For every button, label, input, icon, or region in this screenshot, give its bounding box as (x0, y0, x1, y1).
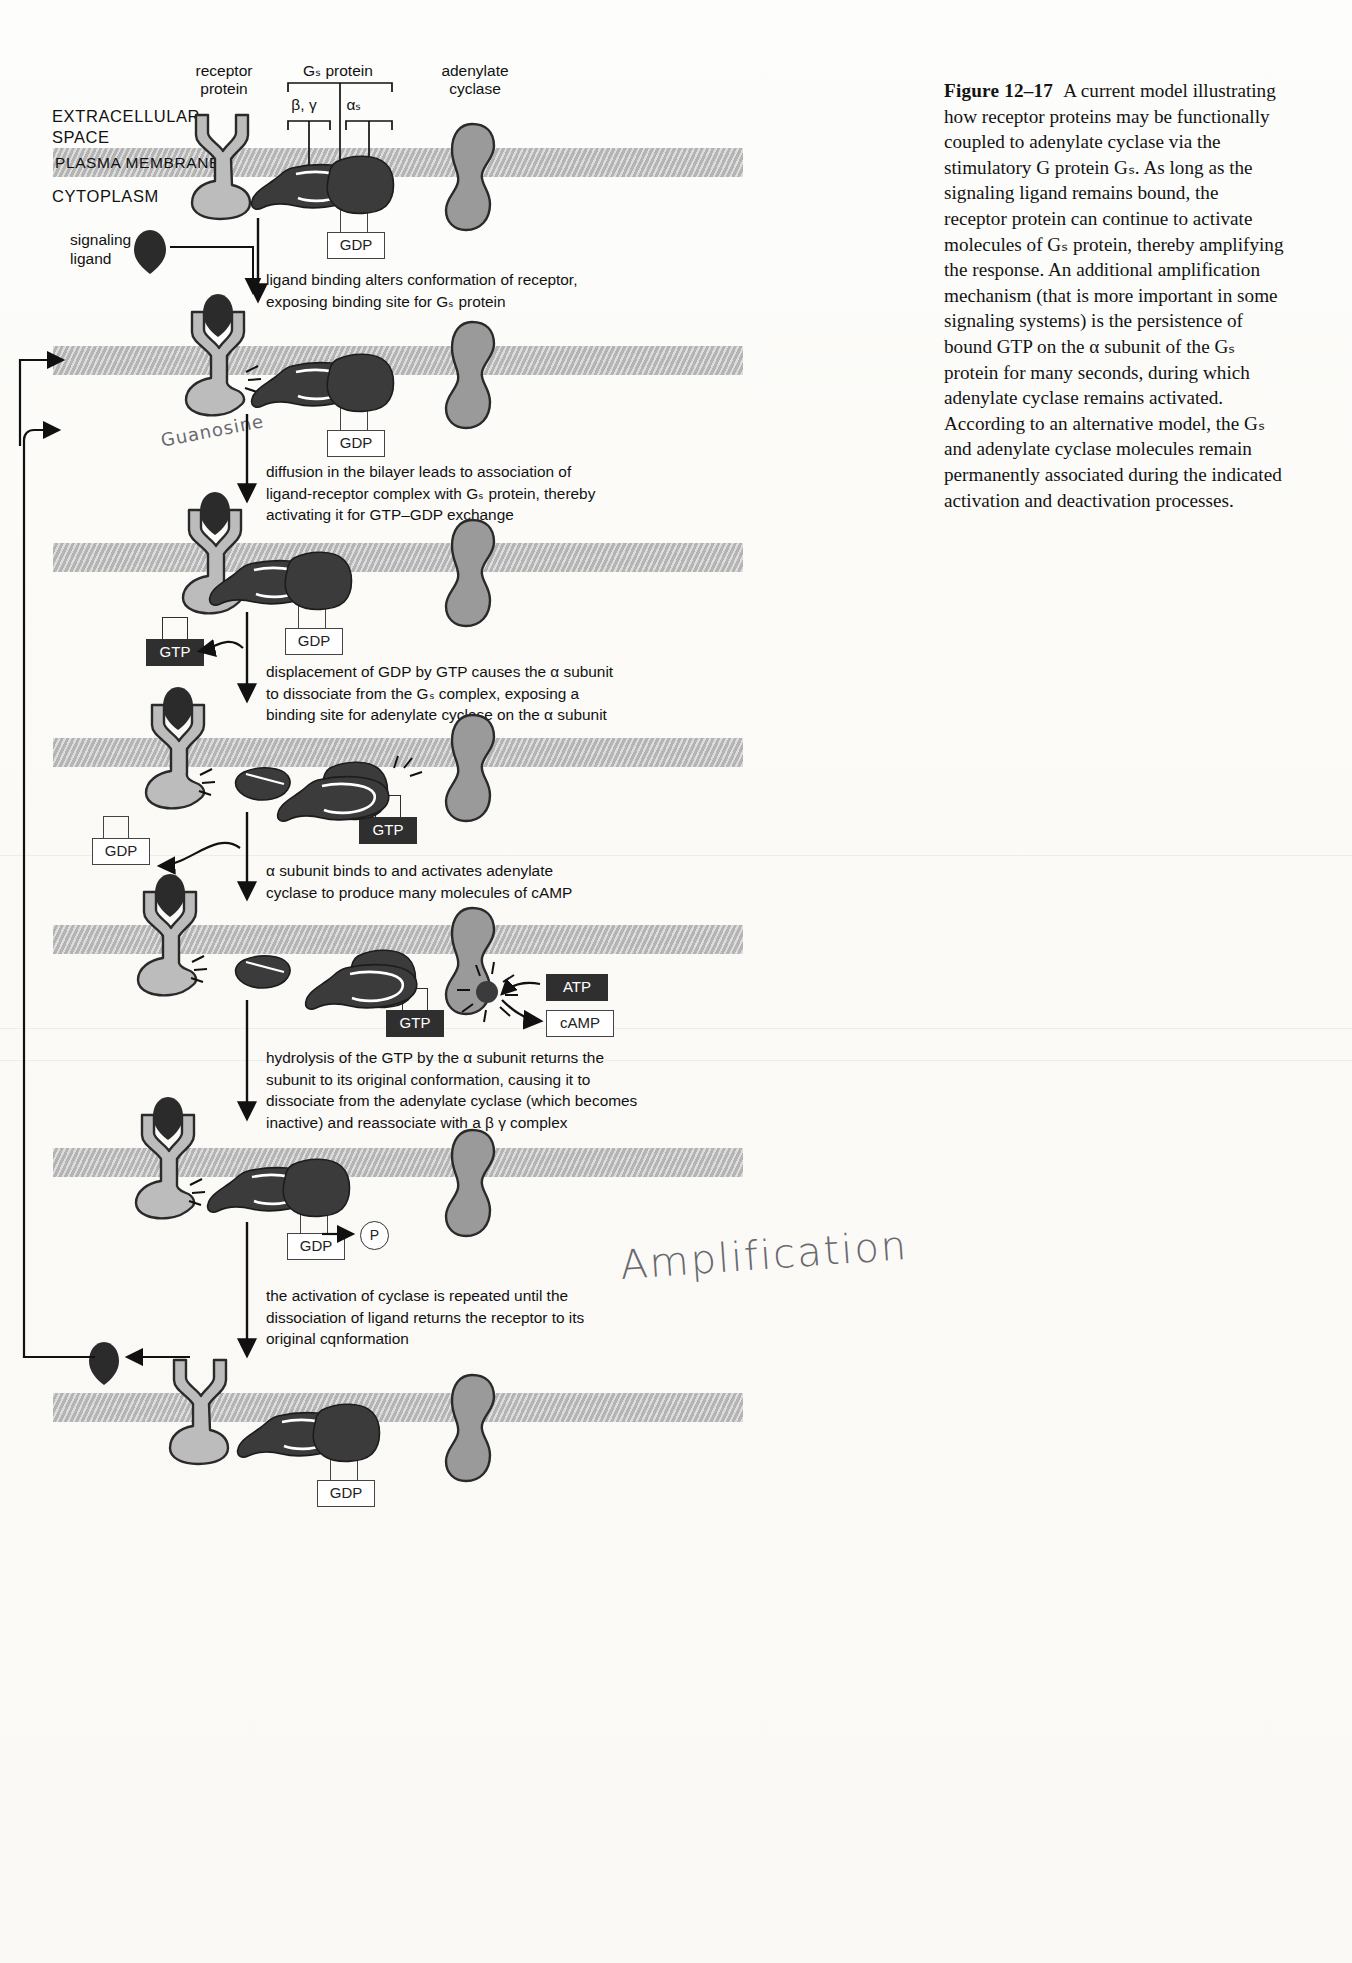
row-4-bg-lobe (278, 777, 389, 822)
alpha-activation-sparkle (394, 756, 422, 776)
row-7-released-ligand (89, 1342, 119, 1385)
signaling-ligand (134, 230, 166, 274)
row-5-bg-lobe (306, 965, 417, 1010)
activation-sparkle (199, 769, 215, 795)
row-6-alpha (283, 1159, 349, 1216)
row-3-cyclase (446, 520, 494, 626)
row-7-cyclase (446, 1375, 494, 1481)
row-4-beta-gamma-free (236, 768, 290, 800)
row-2-cyclase (446, 322, 494, 428)
activation-sparkle (245, 366, 261, 392)
activation-sparkle (189, 1179, 205, 1205)
gdp-release-arrow (160, 843, 240, 866)
atp-arrow (502, 983, 540, 994)
row-4-ligand (163, 687, 193, 730)
row-5-ligand (155, 874, 185, 917)
recycle-loop-arrow (24, 430, 95, 1357)
row-3-ligand (200, 492, 230, 535)
row-6-ligand (153, 1097, 183, 1140)
row-4-cyclase (446, 715, 494, 821)
row-5-bg-free (236, 956, 290, 988)
activation-sparkle (191, 956, 207, 982)
row-7-receptor (170, 1360, 228, 1464)
row-7-alpha (313, 1404, 379, 1461)
row-1-receptor (192, 115, 250, 219)
diagram-artwork (0, 0, 1352, 1963)
row-3-alpha (285, 552, 351, 609)
row-1-cyclase (446, 124, 494, 230)
row-6-cyclase (446, 1130, 494, 1236)
row-2-ligand (203, 294, 233, 337)
ligand-arrow (170, 247, 253, 292)
camp-arrow (502, 1000, 540, 1021)
gtp-entry-arrow (200, 642, 243, 651)
row-2-alpha (327, 354, 393, 411)
row-1-alpha (327, 156, 393, 213)
